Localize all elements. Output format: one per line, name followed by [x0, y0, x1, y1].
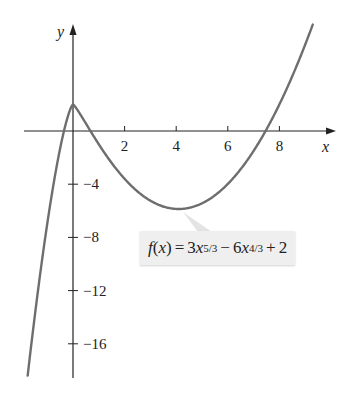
constant-term: 2	[279, 238, 288, 258]
y-tick-label: −4	[83, 176, 99, 192]
x-axis-arrow-icon	[326, 128, 336, 135]
minus-sign: −	[220, 238, 230, 258]
y-axis-label: y	[55, 23, 65, 41]
callout-pointer	[183, 212, 212, 232]
x-tick-label: 6	[224, 138, 232, 154]
equals-sign: =	[175, 238, 185, 258]
function-variable: x	[158, 238, 166, 258]
x-axis: 2468	[24, 126, 336, 154]
y-tick-label: −16	[83, 336, 107, 352]
y-axis-arrow-icon	[70, 24, 77, 35]
x-axis-label: x	[321, 138, 329, 155]
x-tick-label: 2	[121, 138, 129, 154]
plus-sign: +	[266, 238, 276, 258]
coefficient-1: 3	[187, 238, 196, 258]
function-label-callout: f(x) = 3x5/3 − 6x4/3 + 2	[140, 231, 295, 265]
term-1-variable: x	[196, 238, 204, 258]
paren-close: )	[166, 238, 172, 258]
function-graph: 2468 −4−8−12−16 x y	[0, 0, 349, 403]
y-axis: −4−8−12−16	[68, 24, 107, 378]
x-tick-label: 4	[172, 138, 180, 154]
x-tick-label: 8	[276, 138, 284, 154]
y-tick-label: −12	[83, 283, 106, 299]
term-2-variable: x	[241, 238, 249, 258]
function-curve	[28, 25, 313, 376]
y-tick-label: −8	[83, 229, 99, 245]
